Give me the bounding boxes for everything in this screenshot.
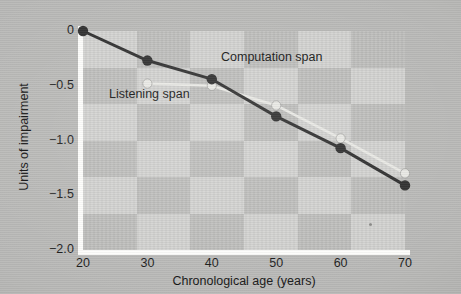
data-point-marker	[400, 180, 410, 190]
chart-series-canvas	[0, 0, 461, 294]
data-point-marker	[272, 101, 281, 110]
series-label-listening-span: Listening span	[109, 87, 190, 101]
data-point-marker	[335, 143, 345, 153]
figure-panel: 0−0.5−1.0−1.5−2.0 203040506070 Units of …	[0, 0, 461, 294]
data-point-marker	[271, 111, 281, 121]
data-point-marker	[142, 55, 152, 65]
scan-speck	[369, 223, 372, 226]
data-point-marker	[336, 134, 345, 143]
data-point-marker	[207, 74, 217, 84]
series-label-computation-span: Computation span	[221, 50, 322, 64]
data-point-marker	[400, 169, 409, 178]
data-point-marker	[78, 26, 88, 36]
